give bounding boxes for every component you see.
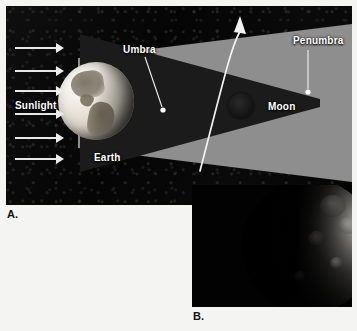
penumbra-leader-dot <box>305 89 310 94</box>
moon-terminator <box>242 185 352 307</box>
moon-photograph <box>242 185 352 307</box>
umbra-leader-dot <box>160 107 165 112</box>
label-umbra: Umbra <box>123 44 156 55</box>
label-sunlight: Sunlight <box>15 100 57 111</box>
figure-root: Sunlight Umbra Penumbra Moon Earth A. B. <box>0 0 357 331</box>
label-earth: Earth <box>94 152 121 163</box>
label-penumbra: Penumbra <box>293 35 344 46</box>
label-moon: Moon <box>268 101 295 112</box>
panel-a-eclipse-diagram: Sunlight Umbra Penumbra Moon Earth <box>6 6 352 205</box>
caption-b: B. <box>193 310 204 322</box>
caption-a: A. <box>7 208 18 220</box>
panel-b-moon-photograph <box>192 185 352 307</box>
